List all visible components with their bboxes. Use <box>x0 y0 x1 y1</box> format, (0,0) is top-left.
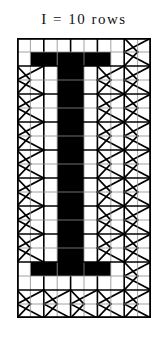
filled-cell <box>30 262 43 276</box>
filled-cell <box>57 80 70 94</box>
filled-cell <box>84 52 97 66</box>
motif-diagonal <box>17 80 30 94</box>
motif-diagonal <box>17 108 30 122</box>
filled-cell <box>71 178 84 192</box>
motif-diagonal <box>97 248 110 262</box>
motif-diagonal <box>124 304 137 318</box>
motif-diagonal <box>124 220 137 234</box>
motif-diagonal <box>17 178 30 192</box>
filled-cell <box>71 66 84 80</box>
filled-cell <box>71 80 84 94</box>
motif-diagonal <box>17 136 30 150</box>
motif-diagonal <box>97 206 110 220</box>
motif-diagonal <box>17 150 30 164</box>
motif-diagonal <box>97 192 110 206</box>
filled-cell <box>71 234 84 248</box>
filled-cell <box>57 164 70 178</box>
motif-diagonal <box>124 178 137 192</box>
motif-diagonal <box>124 108 137 122</box>
filled-cell <box>71 150 84 164</box>
motif-diagonal <box>124 192 137 206</box>
filled-cell <box>71 122 84 136</box>
motif-diagonal <box>124 94 137 108</box>
filled-cell <box>30 52 43 66</box>
filled-cell <box>57 192 70 206</box>
filled-cell <box>57 178 70 192</box>
filled-cell <box>84 262 97 276</box>
quilt-grid <box>17 38 151 318</box>
motif-diagonal <box>97 304 110 318</box>
motif-diagonal <box>97 108 110 122</box>
filled-cell <box>71 262 84 276</box>
motif-diagonal <box>17 304 30 318</box>
filled-cell <box>71 108 84 122</box>
figure-title: I = 10 rows <box>0 11 168 28</box>
motif-diagonal <box>71 304 84 318</box>
filled-cell <box>57 136 70 150</box>
filled-cell <box>97 262 110 276</box>
filled-cell <box>71 206 84 220</box>
filled-cell <box>71 192 84 206</box>
motif-diagonal <box>44 290 57 304</box>
filled-cell <box>71 94 84 108</box>
motif-diagonal <box>97 66 110 80</box>
motif-diagonal <box>17 290 30 304</box>
motif-diagonal <box>97 234 110 248</box>
motif-diagonal <box>124 122 137 136</box>
filled-cell <box>57 248 70 262</box>
filled-cell <box>44 52 57 66</box>
motif-diagonal <box>97 164 110 178</box>
motif-diagonal <box>17 234 30 248</box>
filled-cell <box>57 220 70 234</box>
filled-cell <box>57 52 70 66</box>
grid-lines-layer <box>17 38 151 318</box>
motif-diagonal <box>124 150 137 164</box>
motif-diagonal <box>124 234 137 248</box>
motif-diagonal <box>97 136 110 150</box>
motif-diagonal <box>97 290 110 304</box>
motif-diagonal <box>97 94 110 108</box>
motif-diagonal <box>124 290 137 304</box>
filled-cell <box>57 234 70 248</box>
motif-diagonal <box>97 80 110 94</box>
motif-diagonal <box>124 136 137 150</box>
motif-diagonal <box>17 164 30 178</box>
motif-diagonal <box>97 178 110 192</box>
motif-diagonal <box>124 276 137 290</box>
motif-diagonal <box>124 66 137 80</box>
motif-diagonal <box>17 122 30 136</box>
filled-cell <box>57 66 70 80</box>
quilt-grid-svg <box>17 38 151 318</box>
filled-cell <box>71 164 84 178</box>
filled-cell <box>71 52 84 66</box>
filled-cell <box>71 136 84 150</box>
filled-cell <box>57 94 70 108</box>
motif-diagonal <box>17 66 30 80</box>
filled-cell <box>57 150 70 164</box>
motif-diagonal <box>124 38 137 52</box>
motif-diagonal <box>124 52 137 66</box>
motif-diagonal <box>71 290 84 304</box>
filled-cell <box>71 248 84 262</box>
filled-cell <box>57 262 70 276</box>
motif-diagonal <box>97 150 110 164</box>
motif-diagonal <box>17 94 30 108</box>
quilt-figure: I = 10 rows <box>0 0 168 343</box>
motif-diagonal <box>97 220 110 234</box>
filled-cell <box>57 122 70 136</box>
motif-diagonal <box>124 164 137 178</box>
motif-diagonal <box>17 248 30 262</box>
filled-cell <box>57 206 70 220</box>
filled-cell <box>44 262 57 276</box>
motif-diagonal <box>17 220 30 234</box>
motif-diagonal <box>97 122 110 136</box>
motif-diagonal <box>44 304 57 318</box>
motif-diagonal <box>124 248 137 262</box>
motif-diagonal <box>124 206 137 220</box>
motif-diagonal <box>17 192 30 206</box>
motif-diagonal <box>124 262 137 276</box>
filled-cell <box>97 52 110 66</box>
filled-cell <box>57 108 70 122</box>
motif-diagonal <box>124 80 137 94</box>
motif-diagonal <box>17 206 30 220</box>
